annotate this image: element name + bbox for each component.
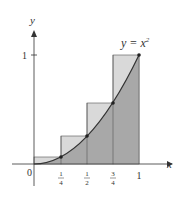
x-tick-1-4-den: 4 xyxy=(59,179,63,187)
x-tick-3-4-den: 4 xyxy=(111,179,115,187)
x-tick-1: 1 xyxy=(137,170,142,181)
origin-label: 0 xyxy=(27,167,32,178)
x-tick-1-2-den: 2 xyxy=(85,179,89,187)
function-label: y = x2 xyxy=(120,36,150,50)
y-axis-arrow-icon xyxy=(31,30,37,37)
x-tick-1-2-num: 1 xyxy=(85,170,89,178)
x-tick-1-4-num: 1 xyxy=(59,170,63,178)
y-axis-label: y xyxy=(29,14,35,26)
y-tick-label: 1 xyxy=(22,50,27,61)
x-tick-3-4-num: 3 xyxy=(111,170,115,178)
x-axis-label: x xyxy=(166,158,172,170)
riemann-diagram: y x 1 0 y = x2 1 4 1 2 3 4 1 xyxy=(0,0,183,199)
